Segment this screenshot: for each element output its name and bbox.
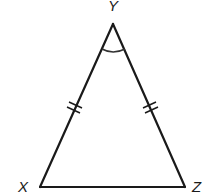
vertex-label-z: Z	[191, 178, 202, 193]
vertex-label-y: Y	[108, 0, 119, 14]
triangle-diagram: Y X Z	[0, 0, 204, 193]
vertex-label-x: X	[17, 178, 29, 193]
angle-mark-y	[102, 49, 125, 52]
